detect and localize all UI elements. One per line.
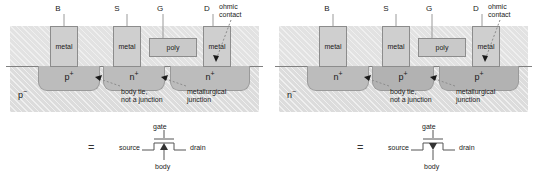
symbol-source-label: source [388,144,409,151]
terminal-label-S: S [376,4,396,13]
well-label-body-tie: p+ [39,70,99,82]
nmos-cross-section: p+ n+ n+ metal metal poly metal p− body … [10,22,259,112]
symbol-body-arrow-up [160,143,168,150]
equals-sign: = [357,141,363,153]
symbol-gate-label: gate [153,123,167,130]
nmos-panel: B S G D ohmic contact p+ n+ n+ metal met [0,0,269,181]
ohmic-contact-line2: contact [219,11,242,18]
metallurgical-junction-callout: metallurgical junction [187,88,247,104]
terminal-label-B: B [317,4,337,13]
source-metal-contact: metal [382,26,410,67]
body-tie-callout-line1: body tie, [121,88,147,95]
well-label-body-tie: n+ [308,70,368,82]
terminal-label-S: S [107,4,127,13]
body-tie-callout-line1: body tie, [390,88,416,95]
terminal-label-G: G [150,4,170,13]
gate-poly-electrode: poly [418,38,466,57]
terminal-label-D: D [466,4,486,13]
metallurgical-junction-callout: metallurgical junction [456,88,516,104]
ohmic-contact-line1: ohmic [488,3,507,10]
pmos-panel: B S G D ohmic contact n+ p+ p+ metal met… [269,0,538,181]
metallurgical-callout-line2: junction [187,96,211,103]
well-body-tie: n+ [307,66,369,91]
symbol-gate-label: gate [422,123,436,130]
ohmic-contact-label: ohmic contact [219,3,263,19]
body-metal-contact: metal [319,26,347,67]
body-tie-callout-line2: not a junction [390,96,432,103]
pmos-symbol-graphic [409,130,465,166]
body-tie-callout-line2: not a junction [121,96,163,103]
well-label-drain: n+ [171,70,249,82]
well-label-drain: p+ [440,70,518,82]
body-tie-callout: body tie, not a junction [121,88,181,104]
body-tie-callout: body tie, not a junction [390,88,450,104]
metallurgical-callout-line1: metallurgical [456,88,495,95]
source-metal-contact: metal [113,26,141,67]
metallurgical-callout-line1: metallurgical [187,88,226,95]
metallurgical-callout-line2: junction [456,96,480,103]
terminal-label-D: D [197,4,217,13]
well-label-source: n+ [104,70,164,82]
symbol-body-arrow-down [429,143,437,150]
terminal-label-G: G [419,4,439,13]
gate-poly-electrode: poly [149,38,197,57]
well-label-source: p+ [373,70,433,82]
substrate-type-label: p− [18,88,27,100]
ohmic-contact-line2: contact [488,11,511,18]
substrate-type-label: n− [287,88,296,100]
ohmic-contact-line1: ohmic [219,3,238,10]
drain-metal-contact: metal [203,26,231,67]
symbol-source-label: source [119,144,140,151]
pmos-cross-section: n+ p+ p+ metal metal poly metal n− body … [279,22,528,112]
well-body-tie: p+ [38,66,100,91]
equals-sign: = [88,141,94,153]
body-metal-contact: metal [50,26,78,67]
ohmic-contact-label: ohmic contact [488,3,532,19]
nmos-symbol-graphic [140,130,196,166]
terminal-label-B: B [48,4,68,13]
drain-metal-contact: metal [472,26,500,67]
mosfet-cross-section-figure: B S G D ohmic contact p+ n+ n+ metal met [0,0,538,181]
